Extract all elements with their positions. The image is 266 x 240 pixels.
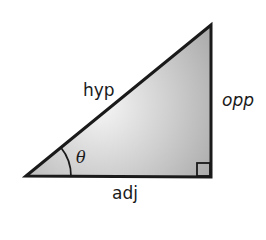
triangle-shape: [26, 25, 211, 177]
hypotenuse-label: hyp: [83, 82, 115, 99]
adjacent-label: adj: [112, 185, 138, 202]
angle-theta-label: θ: [76, 150, 86, 166]
opposite-label: opp: [222, 92, 254, 109]
